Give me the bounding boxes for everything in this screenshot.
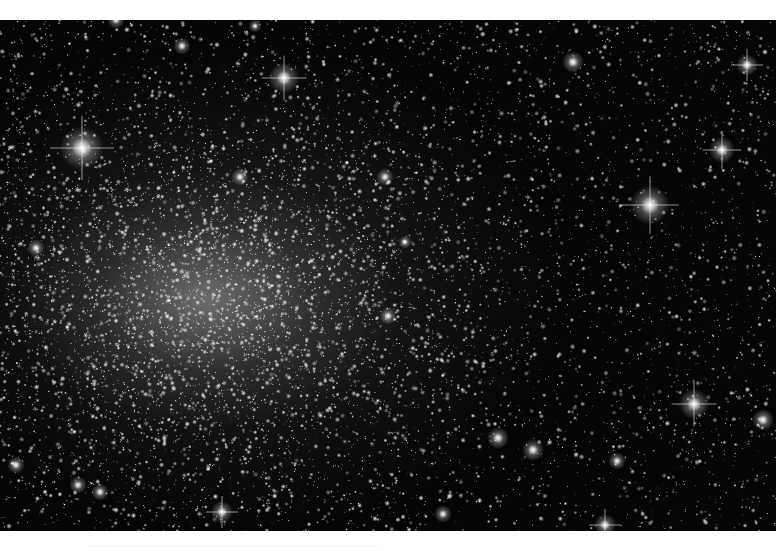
star-cluster-photo <box>0 20 776 531</box>
star-field-canvas <box>0 20 776 531</box>
image-caption: ▁▁▁▁▁▁▁▁▁▁▁▁▁▁▁▁▁▁▁▁▁▁ ▁▁▁▁▁▁▁▁▁▁▁▁▁ ▁▁▁… <box>90 541 650 547</box>
